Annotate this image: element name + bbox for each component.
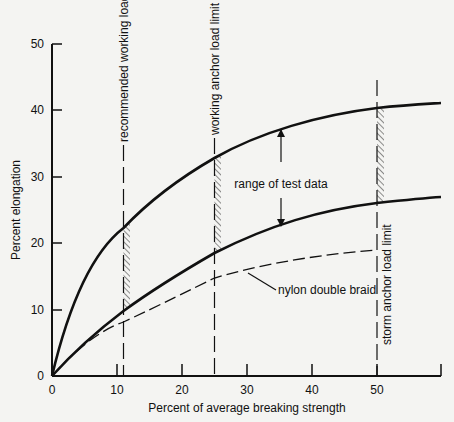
nylon-double-braid-curve	[52, 250, 377, 376]
y-tick-labels: 50 40 30 20 10 0	[31, 37, 45, 383]
svg-text:10: 10	[31, 303, 45, 317]
nylon-annotation: nylon double braid	[248, 273, 376, 297]
range-annotation: range of test data	[234, 129, 328, 227]
svg-text:0: 0	[37, 369, 44, 383]
nylon-double-braid-label: nylon double braid	[278, 283, 376, 297]
x-axis-title: Percent of average breaking strength	[148, 401, 345, 415]
marker-storm-label: storm anchor load limit	[380, 224, 394, 345]
hatch-storm	[377, 108, 384, 203]
vertical-markers	[124, 80, 378, 376]
svg-text:30: 30	[240, 383, 254, 397]
chart-canvas: 50 40 30 20 10 0 0 10 20 30 40 50 Percen…	[0, 0, 454, 422]
marker-recommended-label: recommended working load	[117, 0, 131, 142]
range-of-test-data-label: range of test data	[234, 177, 328, 191]
svg-text:0: 0	[49, 383, 56, 397]
svg-text:20: 20	[175, 383, 189, 397]
hatch-working	[215, 155, 222, 253]
hatch-recommended	[124, 220, 131, 310]
y-axis-title: Percent elongation	[9, 160, 23, 260]
x-tick-labels: 0 10 20 30 40 50	[49, 383, 384, 397]
svg-text:20: 20	[31, 236, 45, 250]
svg-text:50: 50	[31, 37, 45, 51]
svg-text:30: 30	[31, 170, 45, 184]
svg-text:10: 10	[110, 383, 124, 397]
marker-working-label: working anchor load limit	[208, 2, 222, 136]
svg-text:50: 50	[370, 383, 384, 397]
svg-text:40: 40	[305, 383, 319, 397]
svg-text:40: 40	[31, 103, 45, 117]
